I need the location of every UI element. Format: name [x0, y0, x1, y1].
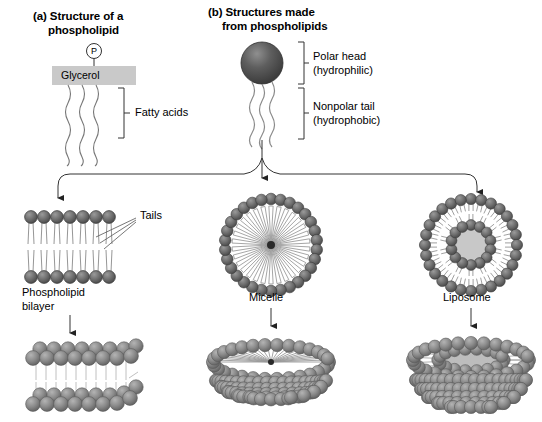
liposome-outer-head [419, 239, 430, 250]
polar-head-label-line2: (hydrophilic) [313, 64, 373, 76]
panel-a-title-line2: phospholipid [48, 24, 119, 36]
phosphate-label: P [91, 46, 97, 56]
micelle-head [256, 194, 268, 206]
diagram-canvas: (a) Structure of a phospholipid (b) Stru… [0, 0, 542, 422]
liposome-outer-head [455, 195, 466, 206]
polar-head-label-line1: Polar head [313, 50, 366, 62]
panel-b-title-line1: (b) Structures made [208, 6, 315, 18]
bilayer-label-line2: bilayer [22, 300, 55, 312]
liposome3d-outer-head [521, 350, 534, 363]
micelle3d-head [297, 389, 310, 402]
micelle3d-head [246, 339, 259, 352]
polar-head-sphere [241, 42, 283, 84]
panel-a-title-line1: (a) Structure of a [33, 10, 124, 22]
bilayer-label-line1: Phospholipid [22, 286, 85, 298]
micelle3d-head [270, 338, 283, 351]
liposome3d-head [497, 396, 510, 409]
glycerol-label: Glycerol [61, 69, 100, 81]
micelle3d-head [321, 352, 334, 365]
tails-callout-label: Tails [140, 209, 163, 221]
liposome3d-outer-head [451, 337, 464, 350]
micelle-core-point [267, 241, 275, 249]
liposome3d-head [484, 400, 497, 413]
liposome-outer-head [511, 239, 522, 250]
liposome3d-outer-head [477, 337, 490, 350]
micelle-label: Micelle [249, 291, 283, 303]
liposome-3d [406, 336, 535, 413]
liposome-label: Liposome [443, 291, 491, 303]
nonpolar-tail-label-line1: Nonpolar tail [313, 100, 375, 112]
liposome-outer-head [421, 250, 432, 261]
liposome-outer-head [510, 229, 521, 240]
nonpolar-tail-label-line2: (hydrophobic) [313, 114, 380, 126]
liposome3d-outer-head [464, 336, 477, 349]
micelle3d-core-point [268, 359, 274, 365]
fatty-acids-label: Fatty acids [135, 106, 189, 118]
liposome-inner-head [457, 222, 468, 233]
micelle3d-head [284, 391, 297, 404]
panel-b-title-line2: from phospholipids [222, 20, 328, 32]
liposome-outer-head [465, 193, 476, 204]
phospholipid-diagram: (a) Structure of a phospholipid (b) Stru… [0, 0, 542, 422]
micelle3d-head [258, 338, 271, 351]
liposome3d-outer-head [439, 338, 452, 351]
liposome3d-heads [406, 336, 535, 413]
